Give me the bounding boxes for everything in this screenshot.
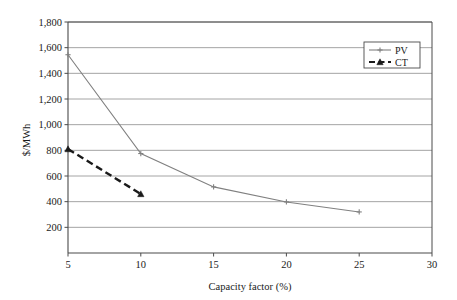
legend-box (364, 42, 420, 68)
y-tick-label-1,800: 1,800 (38, 17, 62, 28)
legend-label-ct: CT (395, 57, 408, 68)
x-tick-label-20: 20 (281, 259, 292, 270)
y-tick-label-400: 400 (46, 196, 62, 207)
y-tick-label-1,600: 1,600 (38, 42, 62, 53)
y-tick-label-1,200: 1,200 (38, 94, 62, 105)
y-tick-label-1,400: 1,400 (38, 68, 62, 79)
chart-legend: PVCT (364, 42, 420, 68)
legend-label-pv: PV (395, 45, 409, 56)
chart-figure: 2004006008001,0001,2001,4001,6001,800 51… (0, 0, 457, 300)
x-tick-label-25: 25 (354, 259, 365, 270)
line-chart: 2004006008001,0001,2001,4001,6001,800 51… (0, 0, 457, 300)
y-tick-label-800: 800 (46, 145, 62, 156)
x-tick-label-5: 5 (65, 259, 70, 270)
y-axis-title: $/MWh (21, 123, 32, 156)
x-tick-label-15: 15 (208, 259, 219, 270)
x-tick-label-10: 10 (136, 259, 147, 270)
x-axis-title: Capacity factor (%) (209, 281, 292, 293)
y-tick-label-1,000: 1,000 (38, 119, 62, 130)
y-tick-label-200: 200 (46, 222, 62, 233)
y-axis-tick-labels: 2004006008001,0001,2001,4001,6001,800 (38, 17, 62, 233)
x-tick-label-30: 30 (427, 259, 438, 270)
x-axis-tick-labels: 51015202530 (65, 259, 437, 270)
y-tick-label-600: 600 (46, 171, 62, 182)
